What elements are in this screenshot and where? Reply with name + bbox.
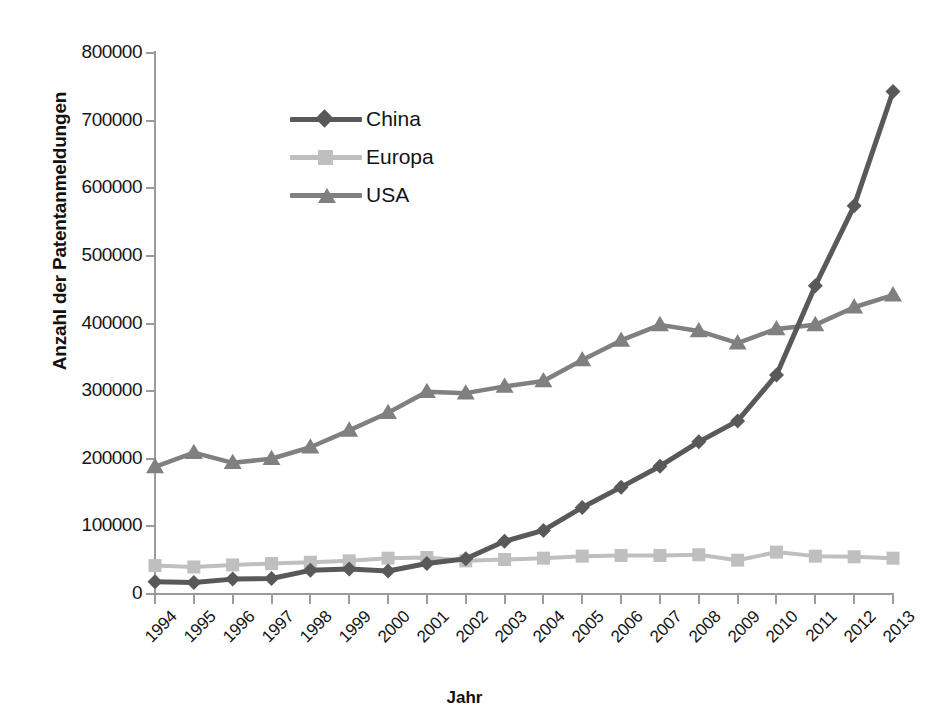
x-tick-mark: [426, 595, 428, 604]
x-tick-mark: [542, 595, 544, 604]
legend-marker-diamond-icon: [315, 109, 333, 127]
y-tick: 200000: [38, 447, 142, 467]
y-tick-label: 300000: [42, 379, 142, 401]
legend-item-china[interactable]: China: [290, 100, 480, 138]
data-point-marker: [806, 316, 824, 331]
x-tick-mark: [737, 595, 739, 604]
y-tick-label: 0: [42, 582, 142, 604]
data-point-marker: [847, 198, 862, 213]
data-point-marker: [575, 500, 590, 515]
y-tick-mark: [146, 255, 155, 257]
y-tick: 600000: [38, 176, 142, 196]
x-tick-mark: [193, 595, 195, 604]
x-tick-mark: [620, 595, 622, 604]
y-tick: 500000: [38, 244, 142, 264]
patent-applications-line-chart: Anzahl der Patentanmeldungen 80000070000…: [0, 0, 929, 719]
data-point-marker: [887, 552, 900, 565]
x-axis-title: Jahr: [0, 688, 929, 708]
legend-item-usa[interactable]: USA: [290, 176, 480, 214]
data-point-marker: [265, 557, 278, 570]
y-axis-title: Anzahl der Patentanmeldungen: [49, 21, 71, 441]
data-point-marker: [615, 549, 628, 562]
data-point-marker: [343, 554, 356, 567]
y-tick: 800000: [38, 41, 142, 61]
x-tick-mark: [698, 595, 700, 604]
data-point-marker: [224, 454, 242, 469]
data-point-marker: [848, 550, 861, 563]
data-point-marker: [418, 383, 436, 398]
y-tick-mark: [146, 323, 155, 325]
y-tick-label: 200000: [42, 447, 142, 469]
series-usa: [146, 286, 902, 473]
data-point-marker: [845, 298, 863, 313]
data-point-marker: [457, 384, 475, 399]
data-point-marker: [226, 558, 239, 571]
data-point-marker: [379, 404, 397, 419]
data-point-marker: [576, 550, 589, 563]
legend-label: USA: [362, 183, 409, 207]
data-point-marker: [459, 554, 472, 567]
legend-label: Europa: [362, 145, 434, 169]
y-tick: 0: [38, 582, 142, 602]
data-point-marker: [729, 334, 747, 349]
x-tick-mark: [387, 595, 389, 604]
data-point-marker: [497, 534, 512, 549]
data-point-marker: [186, 575, 201, 590]
data-point-marker: [730, 413, 745, 428]
data-point-marker: [303, 563, 318, 578]
data-point-marker: [612, 331, 630, 346]
data-point-marker: [420, 551, 433, 564]
data-point-marker: [498, 553, 511, 566]
legend-swatch-square-icon: [290, 148, 362, 166]
data-point-marker: [884, 286, 902, 301]
y-tick-label: 800000: [42, 41, 142, 63]
x-tick-mark: [775, 595, 777, 604]
y-tick-mark: [146, 525, 155, 527]
chart-legend: ChinaEuropaUSA: [290, 100, 480, 214]
data-point-marker: [381, 564, 396, 579]
data-point-marker: [651, 316, 669, 331]
data-point-marker: [769, 367, 784, 382]
data-point-marker: [342, 561, 357, 576]
y-tick-label: 600000: [42, 176, 142, 198]
legend-label: China: [362, 107, 421, 131]
x-tick-mark: [892, 595, 894, 604]
data-point-marker: [301, 438, 319, 453]
data-point-marker: [731, 554, 744, 567]
y-tick-mark: [146, 120, 155, 122]
series-line: [155, 92, 893, 583]
y-tick-label: 400000: [42, 312, 142, 334]
data-point-marker: [419, 556, 434, 571]
x-tick-mark: [581, 595, 583, 604]
x-tick-mark: [853, 595, 855, 604]
data-point-marker: [185, 444, 203, 459]
series-line: [155, 295, 893, 467]
data-point-marker: [767, 320, 785, 335]
data-point-marker: [808, 278, 823, 293]
legend-marker-square-icon: [318, 150, 333, 165]
data-point-marker: [652, 459, 667, 474]
data-point-marker: [382, 552, 395, 565]
legend-item-europa[interactable]: Europa: [290, 138, 480, 176]
legend-swatch-triangle-icon: [290, 186, 362, 204]
data-point-marker: [225, 572, 240, 587]
x-tick-mark: [232, 595, 234, 604]
data-point-marker: [573, 351, 591, 366]
x-tick-mark: [814, 595, 816, 604]
x-tick-mark: [504, 595, 506, 604]
series-line: [155, 552, 893, 567]
data-point-marker: [263, 450, 281, 465]
data-point-marker: [614, 480, 629, 495]
data-point-marker: [187, 560, 200, 573]
y-tick-mark: [146, 187, 155, 189]
y-tick: 100000: [38, 514, 142, 534]
data-point-marker: [340, 421, 358, 436]
data-point-marker: [496, 377, 514, 392]
x-tick-mark: [348, 595, 350, 604]
series-europa: [149, 546, 900, 574]
x-tick-mark: [659, 595, 661, 604]
data-point-marker: [264, 571, 279, 586]
data-point-marker: [304, 556, 317, 569]
x-tick-mark: [465, 595, 467, 604]
data-point-marker: [690, 322, 708, 337]
